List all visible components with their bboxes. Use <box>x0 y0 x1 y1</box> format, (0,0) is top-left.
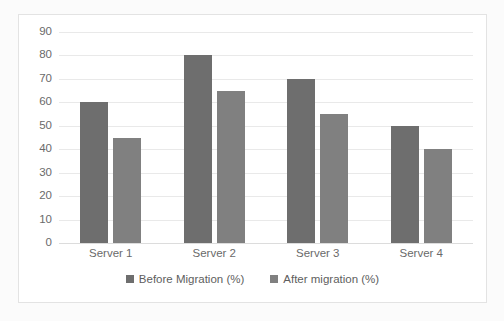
bar <box>287 79 315 243</box>
bars-layer <box>59 32 473 243</box>
bar <box>424 149 452 243</box>
y-axis-tick-label: 30 <box>39 167 52 179</box>
bar <box>184 55 212 243</box>
legend-swatch-icon <box>270 275 278 283</box>
bar <box>217 91 245 243</box>
chart-legend: Before Migration (%)After migration (%) <box>19 273 486 285</box>
legend-label: After migration (%) <box>283 273 379 285</box>
chart-frame: 0102030405060708090 Server 1Server 2Serv… <box>18 14 487 303</box>
y-axis-tick-label: 20 <box>39 190 52 202</box>
x-axis-labels: Server 1Server 2Server 3Server 4 <box>59 247 473 259</box>
bar-group <box>266 32 370 243</box>
y-axis-tick-label: 70 <box>39 73 52 85</box>
x-axis-tick-label: Server 1 <box>59 247 163 259</box>
legend-item[interactable]: Before Migration (%) <box>126 273 244 285</box>
x-axis-tick-label: Server 2 <box>163 247 267 259</box>
y-axis-tick-label: 50 <box>39 120 52 132</box>
y-axis-tick-label: 10 <box>39 214 52 226</box>
legend-label: Before Migration (%) <box>139 273 244 285</box>
x-axis-tick-label: Server 4 <box>370 247 474 259</box>
y-axis-tick-label: 90 <box>39 26 52 38</box>
plot-area: 0102030405060708090 <box>59 32 473 243</box>
y-axis-tick-label: 60 <box>39 97 52 109</box>
bar-group <box>59 32 163 243</box>
legend-item[interactable]: After migration (%) <box>270 273 379 285</box>
bar <box>320 114 348 243</box>
bar-group <box>370 32 474 243</box>
y-axis-tick-label: 40 <box>39 143 52 155</box>
bar <box>80 102 108 243</box>
bar <box>113 138 141 244</box>
bar-group <box>163 32 267 243</box>
y-axis-tick-label: 0 <box>46 237 52 249</box>
gridline: 0 <box>59 243 473 244</box>
bar <box>391 126 419 243</box>
legend-swatch-icon <box>126 275 134 283</box>
y-axis-tick-label: 80 <box>39 50 52 62</box>
x-axis-tick-label: Server 3 <box>266 247 370 259</box>
